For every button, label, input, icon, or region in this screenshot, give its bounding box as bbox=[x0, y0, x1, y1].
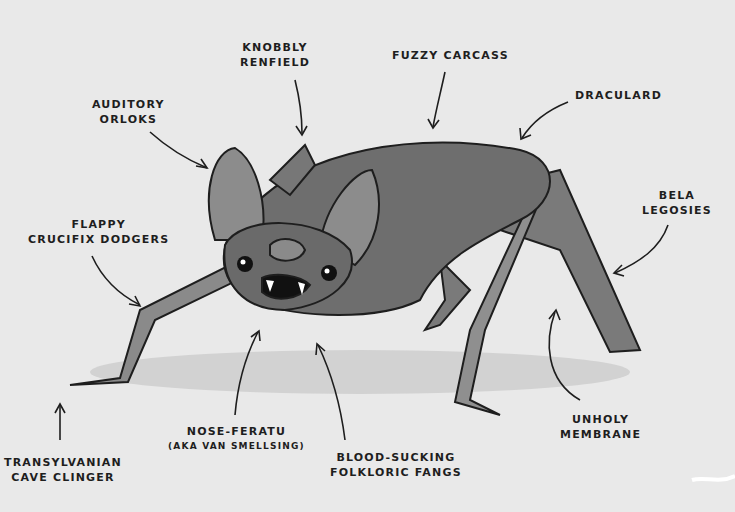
label-transylvanian-cave-clinger: Transylvanian Cave Clinger bbox=[4, 455, 122, 485]
label-flappy-crucifix-dodgers: Flappy Crucifix Dodgers bbox=[28, 217, 169, 247]
label-draculard: Draculard bbox=[575, 88, 662, 103]
label-fuzzy-carcass: Fuzzy Carcass bbox=[392, 48, 509, 63]
label-blood-sucking-folkloric-fangs: Blood-Sucking Folkloric Fangs bbox=[330, 450, 462, 480]
left-eye bbox=[237, 256, 253, 272]
label-knobbly-renfield: Knobbly Renfield bbox=[240, 40, 310, 70]
corner-swoosh bbox=[692, 476, 735, 480]
label-auditory-orloks: Auditory Orloks bbox=[92, 97, 165, 127]
right-eye bbox=[321, 265, 337, 281]
label-nose-feratu: Nose-Feratu (aka Van Smellsing) bbox=[168, 424, 305, 454]
label-unholy-membrane: Unholy Membrane bbox=[560, 412, 641, 442]
ground-shadow bbox=[90, 350, 630, 394]
label-bela-legosies: Bela Legosies bbox=[642, 188, 712, 218]
